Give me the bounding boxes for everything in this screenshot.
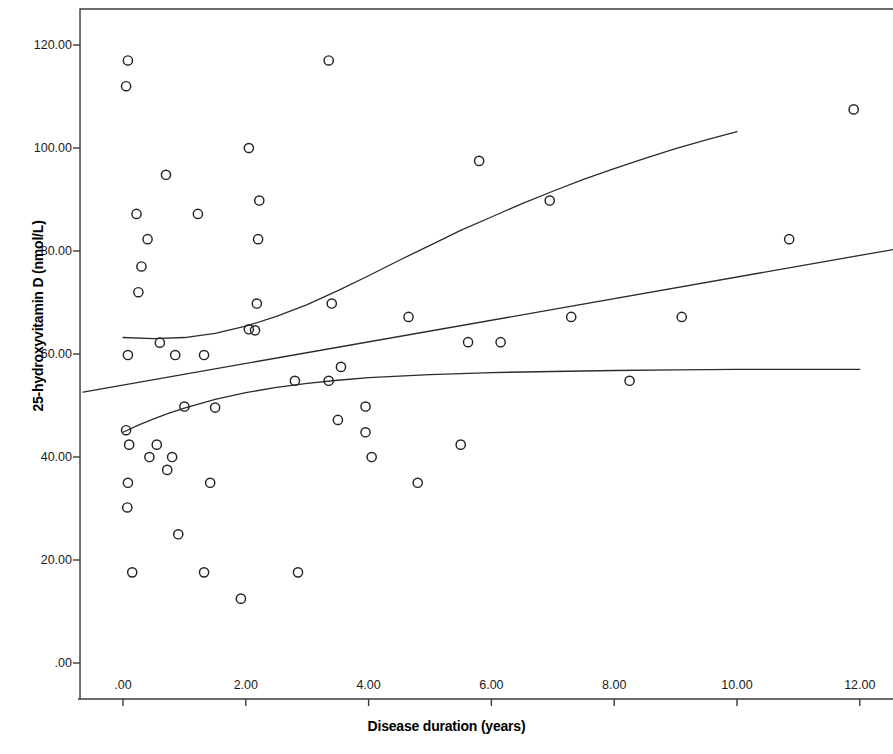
y-axis-title: 25-hydroxyvitamin D (nmol/L) bbox=[30, 136, 46, 496]
data-point bbox=[206, 478, 215, 487]
data-point bbox=[244, 143, 253, 152]
data-point bbox=[250, 326, 259, 335]
data-point bbox=[255, 196, 264, 205]
data-point bbox=[132, 209, 141, 218]
x-axis-ticks bbox=[123, 699, 860, 706]
data-point bbox=[193, 209, 202, 218]
data-point bbox=[128, 568, 137, 577]
data-point bbox=[123, 503, 132, 512]
data-point bbox=[236, 594, 245, 603]
x-tick-label: 10.00 bbox=[721, 678, 752, 692]
data-point bbox=[123, 478, 132, 487]
data-point bbox=[327, 299, 336, 308]
data-point bbox=[361, 402, 370, 411]
data-point bbox=[174, 530, 183, 539]
data-point bbox=[134, 288, 143, 297]
data-point bbox=[199, 350, 208, 359]
y-axis-ticks bbox=[73, 45, 80, 663]
x-tick-label: 8.00 bbox=[602, 678, 626, 692]
data-point bbox=[849, 105, 858, 114]
plot-canvas bbox=[0, 0, 893, 754]
x-tick-label: 12.00 bbox=[844, 678, 875, 692]
x-tick-label: 6.00 bbox=[479, 678, 503, 692]
data-point bbox=[199, 568, 208, 577]
x-axis-title: Disease duration (years) bbox=[0, 718, 893, 734]
scatter-plot-figure: .0020.0040.0060.0080.00100.00120.00 25-h… bbox=[0, 0, 893, 754]
x-tick-label: 4.00 bbox=[356, 678, 380, 692]
data-point bbox=[137, 262, 146, 271]
data-point bbox=[143, 235, 152, 244]
data-point bbox=[121, 82, 130, 91]
data-point bbox=[567, 312, 576, 321]
data-point bbox=[785, 235, 794, 244]
data-point bbox=[463, 338, 472, 347]
data-point bbox=[168, 452, 177, 461]
data-point bbox=[475, 156, 484, 165]
data-point bbox=[123, 56, 132, 65]
data-point bbox=[211, 403, 220, 412]
flattening-lower-fit bbox=[123, 369, 860, 432]
x-tick-label: .00 bbox=[114, 678, 131, 692]
x-tick-label: 2.00 bbox=[234, 678, 258, 692]
data-point bbox=[404, 312, 413, 321]
data-point bbox=[152, 440, 161, 449]
data-point bbox=[496, 338, 505, 347]
data-point bbox=[413, 478, 422, 487]
data-point bbox=[293, 568, 302, 577]
data-point bbox=[123, 350, 132, 359]
data-point bbox=[161, 170, 170, 179]
data-point bbox=[163, 465, 172, 474]
fit-lines bbox=[83, 132, 893, 433]
data-point bbox=[625, 376, 634, 385]
data-point bbox=[253, 235, 262, 244]
data-point bbox=[125, 440, 134, 449]
data-point bbox=[336, 362, 345, 371]
data-point bbox=[456, 440, 465, 449]
data-point bbox=[252, 299, 261, 308]
quadratic-upper-fit bbox=[123, 132, 737, 339]
linear-fit bbox=[83, 249, 893, 392]
data-point bbox=[171, 350, 180, 359]
data-point bbox=[155, 338, 164, 347]
data-point bbox=[324, 56, 333, 65]
data-point bbox=[367, 452, 376, 461]
data-point bbox=[145, 452, 154, 461]
data-point bbox=[677, 312, 686, 321]
data-point bbox=[361, 428, 370, 437]
data-point bbox=[333, 415, 342, 424]
data-point bbox=[290, 376, 299, 385]
data-point bbox=[545, 196, 554, 205]
